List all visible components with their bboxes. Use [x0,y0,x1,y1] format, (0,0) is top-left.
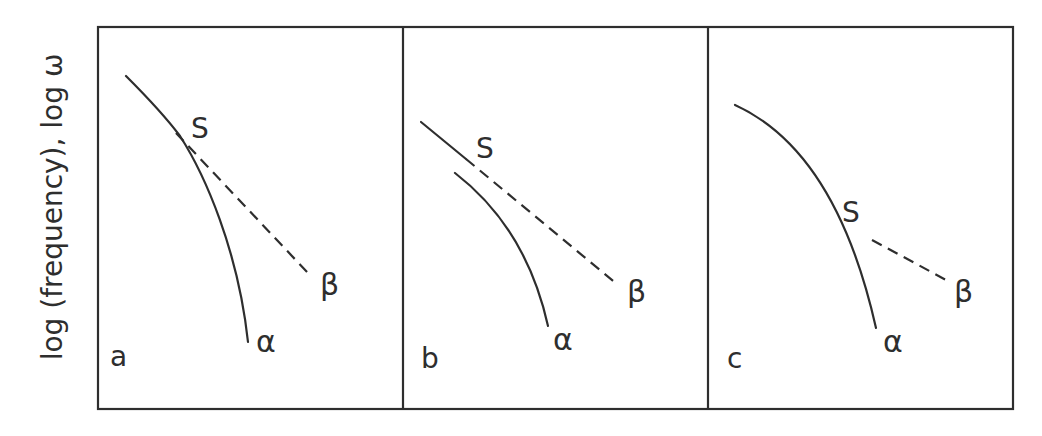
panel-b-letter: b [421,342,439,375]
y-axis-label: log (frequency), log ω [36,54,69,361]
panel-a-alpha-curve [126,76,248,342]
panel-c-beta-dashed [872,240,948,281]
dispersion-diagram: log (frequency), log ω S β α a S β α b S… [0,0,1042,436]
panel-a-s-label: S [191,112,209,145]
panel-b-s-label: S [476,132,494,165]
panel-a-beta-label: β [320,267,339,302]
panel-a-letter: a [110,340,127,373]
panel-b-alpha-curve [455,173,548,326]
panel-b-alpha-label: α [553,322,573,357]
panel-c-s-label: S [842,196,860,229]
panel-b: S β α b [421,122,646,375]
panel-c: S β α c [727,105,973,375]
panel-a: S β α a [110,76,339,373]
panel-b-beta-dashed [466,159,618,285]
panel-a-alpha-label: α [256,324,276,359]
panel-a-beta-dashed [176,133,308,273]
panel-c-letter: c [727,342,742,375]
panel-c-beta-label: β [954,274,973,309]
panel-b-beta-label: β [627,274,646,309]
panel-b-shared-line [421,122,466,159]
panel-c-alpha-label: α [883,324,903,359]
